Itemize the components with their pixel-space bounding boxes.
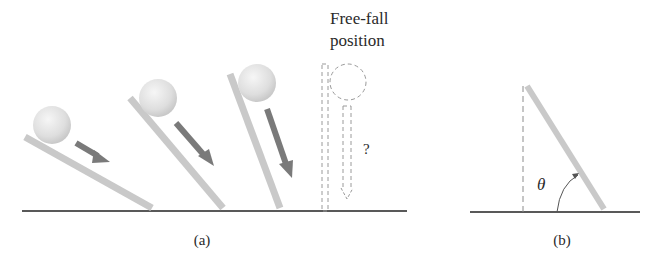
arrowhead-free-fall-dashed	[341, 188, 353, 199]
free-fall-label-line1: Free-fall	[330, 9, 389, 28]
arrow-steep-angle	[267, 109, 293, 178]
caption-a: (a)	[194, 232, 211, 249]
panel-a: Free-fall position ? (a)	[22, 9, 407, 249]
board-free-fall-dashed	[322, 64, 328, 211]
arrow-free-fall-dashed	[343, 106, 351, 187]
ball-steep-angle	[238, 64, 276, 102]
angle-arc	[557, 175, 578, 212]
question-mark-label: ?	[363, 141, 370, 157]
ball-low-angle	[33, 106, 71, 144]
free-fall-diagram: Free-fall position ? (a) θ (b)	[0, 0, 661, 262]
angle-theta-label: θ	[537, 175, 545, 194]
ball-free-fall-dashed	[330, 64, 366, 100]
panel-b: θ (b)	[470, 86, 640, 249]
arrow-low-angle	[76, 143, 110, 163]
free-fall-label-line2: position	[330, 31, 385, 50]
ball-medium-angle	[139, 79, 177, 117]
caption-b: (b)	[553, 232, 571, 249]
